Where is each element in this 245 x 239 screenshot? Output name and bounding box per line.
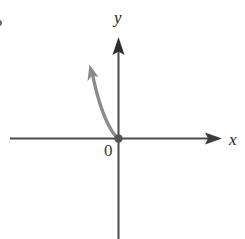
x-axis-label: x <box>229 131 237 148</box>
graph-figure: y x 0 <box>0 0 245 239</box>
curve-path <box>92 72 118 138</box>
origin-label: 0 <box>104 142 113 159</box>
coordinate-plane <box>0 0 245 239</box>
y-axis-label: y <box>114 9 122 26</box>
origin-point-marker <box>114 134 122 142</box>
